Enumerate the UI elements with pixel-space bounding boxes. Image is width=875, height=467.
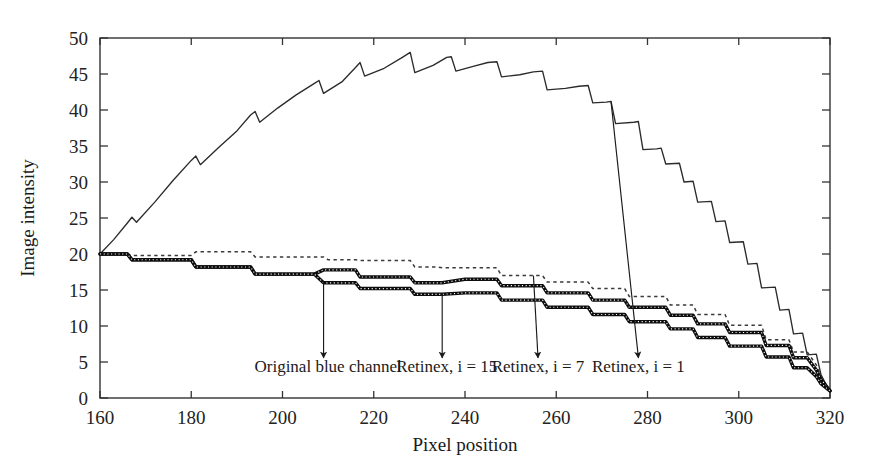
chart-figure: 160180200220240260280300320 051015202530… — [0, 0, 875, 467]
x-tick-label: 160 — [86, 407, 115, 428]
annotation-label: Original blue channel — [254, 357, 402, 376]
annotation-label: Retinex, i = 1 — [592, 357, 685, 376]
y-tick-label: 30 — [69, 172, 88, 193]
x-tick-label: 180 — [177, 407, 206, 428]
y-tick-label: 20 — [69, 244, 88, 265]
x-tick-label: 200 — [268, 407, 297, 428]
y-tick-label: 50 — [69, 28, 88, 49]
y-tick-label: 15 — [69, 280, 88, 301]
intensity-profile-chart: 160180200220240260280300320 051015202530… — [0, 0, 875, 467]
y-tick-label: 40 — [69, 100, 88, 121]
y-axis-title: Image intensity — [17, 159, 38, 277]
annotation-label: Retinex, i = 15 — [396, 357, 497, 376]
annotation-label: Retinex, i = 7 — [492, 357, 585, 376]
x-tick-labels: 160180200220240260280300320 — [86, 407, 845, 428]
y-tick-label: 35 — [69, 136, 88, 157]
x-tick-label: 240 — [451, 407, 480, 428]
x-tick-label: 300 — [725, 407, 754, 428]
y-tick-label: 0 — [79, 388, 89, 409]
y-tick-label: 25 — [69, 208, 88, 229]
chart-background — [0, 0, 875, 467]
x-axis-title: Pixel position — [412, 434, 518, 455]
y-tick-label: 5 — [79, 352, 89, 373]
x-tick-label: 320 — [816, 407, 845, 428]
y-tick-label: 45 — [69, 64, 88, 85]
x-tick-label: 280 — [633, 407, 662, 428]
x-tick-label: 220 — [360, 407, 389, 428]
x-tick-label: 260 — [542, 407, 571, 428]
y-tick-label: 10 — [69, 316, 88, 337]
